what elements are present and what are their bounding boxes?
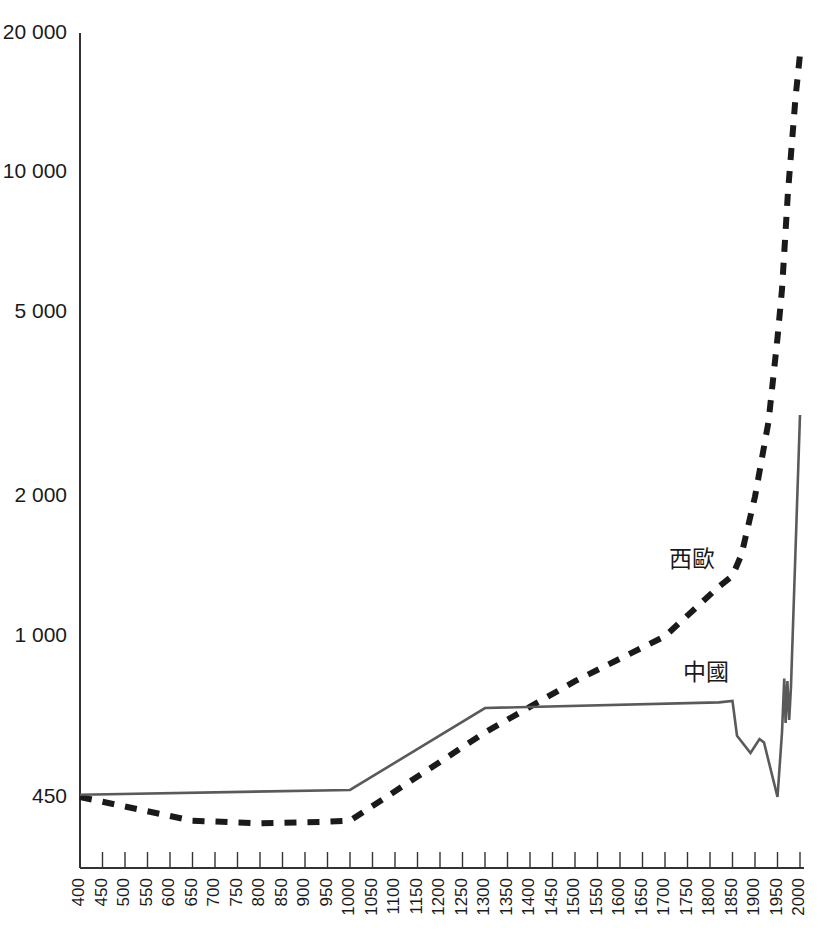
x-tick-label: 1400 xyxy=(519,878,538,916)
x-tick-label: 850 xyxy=(272,878,291,906)
y-tick-label: 10 000 xyxy=(3,159,67,182)
series-label-中國: 中國 xyxy=(683,659,729,685)
y-tick-label: 1 000 xyxy=(14,623,67,646)
x-tick-label: 1950 xyxy=(767,878,786,916)
x-tick-label: 1100 xyxy=(384,878,403,915)
series-line-西歐 xyxy=(80,54,800,823)
x-tick-label: 1500 xyxy=(564,878,583,916)
series-labels: 西歐中國 xyxy=(669,546,729,684)
x-tick-label: 500 xyxy=(114,878,133,906)
x-tick-label: 1700 xyxy=(654,878,673,916)
x-tick-label: 600 xyxy=(159,878,178,906)
x-tick-label: 1350 xyxy=(497,878,516,916)
x-tick-label: 1000 xyxy=(339,878,358,916)
x-tick-label: 1050 xyxy=(362,878,381,916)
x-tick-label: 1200 xyxy=(429,878,448,916)
x-tick-label: 1600 xyxy=(609,878,628,916)
series-label-西歐: 西歐 xyxy=(669,546,715,572)
x-tick-label: 450 xyxy=(92,878,111,906)
x-tick-label: 1300 xyxy=(474,878,493,916)
x-tick-label: 1850 xyxy=(722,878,741,916)
chart-container: 4501 0002 0005 00010 00020 000 400450500… xyxy=(0,0,823,939)
y-axis: 4501 0002 0005 00010 00020 000 xyxy=(3,20,80,868)
x-tick-label: 1250 xyxy=(452,878,471,916)
series-line-中國 xyxy=(80,415,800,797)
x-tick-label: 750 xyxy=(227,878,246,906)
x-tick-label: 950 xyxy=(317,878,336,906)
y-tick-label: 450 xyxy=(32,784,67,807)
x-tick-label: 1800 xyxy=(699,878,718,916)
x-tick-label: 1450 xyxy=(542,878,561,916)
line-chart: 4501 0002 0005 00010 00020 000 400450500… xyxy=(0,0,823,939)
x-tick-label: 1550 xyxy=(587,878,606,916)
x-tick-label: 550 xyxy=(137,878,156,906)
x-tick-label: 1900 xyxy=(744,878,763,916)
x-tick-label: 650 xyxy=(182,878,201,906)
x-tick-label: 2000 xyxy=(789,878,808,916)
y-tick-label: 2 000 xyxy=(14,483,67,506)
y-tick-label: 5 000 xyxy=(14,299,67,322)
x-tick-label: 1650 xyxy=(632,878,651,916)
x-tick-label: 700 xyxy=(204,878,223,906)
y-tick-label: 20 000 xyxy=(3,20,67,43)
x-tick-label: 400 xyxy=(69,878,88,906)
series-layer xyxy=(80,54,800,823)
x-tick-label: 1750 xyxy=(677,878,696,916)
x-axis: 4004505005506006507007508008509009501000… xyxy=(69,852,808,916)
x-tick-label: 900 xyxy=(294,878,313,906)
x-tick-label: 800 xyxy=(249,878,268,906)
x-tick-label: 1150 xyxy=(407,878,426,915)
